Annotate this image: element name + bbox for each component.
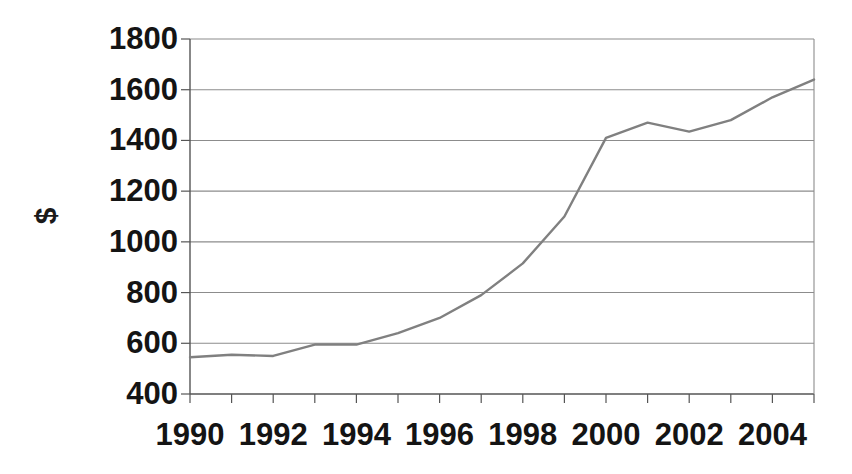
plot-area: [0, 0, 852, 474]
y-axis-ticks: [181, 39, 190, 394]
x-axis-ticks: [190, 394, 814, 403]
grid-lines: [190, 39, 814, 343]
line-chart-figure: $ 40060080010001200140016001800 19901992…: [0, 0, 852, 474]
axis-lines: [190, 39, 814, 394]
data-series-line: [190, 80, 814, 358]
